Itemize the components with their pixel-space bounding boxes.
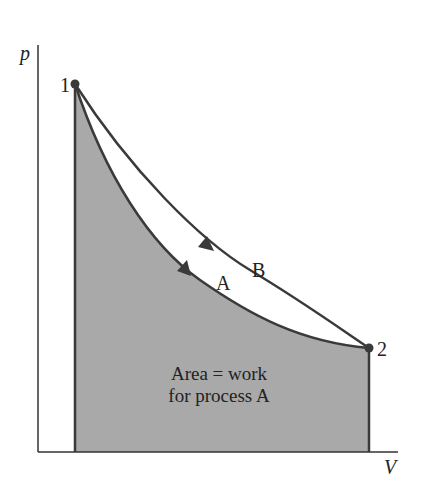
y-axis-label: p bbox=[18, 42, 30, 65]
state-point-2 bbox=[365, 344, 374, 353]
process-a-label: A bbox=[216, 272, 231, 294]
area-annotation-line2: for process A bbox=[168, 385, 270, 406]
point-1-label: 1 bbox=[60, 74, 70, 96]
process-b-label: B bbox=[252, 259, 265, 281]
point-2-label: 2 bbox=[377, 338, 387, 360]
state-point-1 bbox=[71, 80, 80, 89]
x-axis-label: V bbox=[384, 456, 399, 478]
pv-diagram: p V 1 2 A B Area = work for process A bbox=[0, 0, 422, 495]
area-annotation-line1: Area = work bbox=[171, 363, 268, 384]
